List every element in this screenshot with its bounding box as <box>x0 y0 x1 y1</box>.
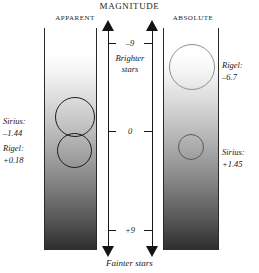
label-sirius-apparent-value: –1.44 <box>3 128 22 138</box>
label-sirius-apparent-name: Sirius: <box>3 116 26 126</box>
label-rigel-absolute: Rigel: –6.7 <box>222 60 243 83</box>
label-sirius-absolute-value: +1.45 <box>222 159 243 169</box>
label-sirius-absolute-name: Sirius: <box>222 147 245 157</box>
arrow-down-left-icon <box>102 246 114 257</box>
absolute-band-right-rule <box>218 28 219 250</box>
absolute-band-left-rule <box>163 28 164 250</box>
brighter-stars-caption: Brighter stars <box>104 53 156 75</box>
label-sirius-apparent: Sirius: –1.44 <box>3 116 26 139</box>
tick-label-minus9: –9 <box>108 38 152 48</box>
star-marker-rigel-apparent <box>57 133 92 168</box>
arrow-down-right-icon <box>146 246 158 257</box>
label-rigel-absolute-value: –6.7 <box>222 72 237 82</box>
tick-label-plus9: +9 <box>108 225 152 235</box>
fainter-stars-caption: Fainter stars <box>0 258 259 268</box>
apparent-band-right-rule <box>96 28 97 250</box>
label-rigel-apparent: Rigel: +0.18 <box>3 143 24 166</box>
figure-title: Magnitude <box>0 1 259 11</box>
column-header-apparent: Apparent <box>42 14 108 22</box>
tick-label-zero: 0 <box>108 126 152 136</box>
star-marker-sirius-apparent <box>55 97 95 137</box>
star-marker-sirius-absolute <box>178 134 204 160</box>
brighter-stars-line1: Brighter <box>116 53 145 63</box>
brighter-stars-line2: stars <box>122 64 139 74</box>
label-rigel-apparent-value: +0.18 <box>3 155 24 165</box>
arrow-up-left-icon <box>102 20 114 31</box>
label-rigel-apparent-name: Rigel: <box>3 143 24 153</box>
label-sirius-absolute: Sirius: +1.45 <box>222 147 245 170</box>
column-header-absolute: Absolute <box>160 14 226 22</box>
star-marker-rigel-absolute <box>169 44 215 90</box>
apparent-band-left-rule <box>44 28 45 250</box>
magnitude-scale-diagram: Magnitude Apparent Absolute –9 0 +9 Brig… <box>0 0 259 273</box>
label-rigel-absolute-name: Rigel: <box>222 60 243 70</box>
arrow-up-right-icon <box>146 20 158 31</box>
